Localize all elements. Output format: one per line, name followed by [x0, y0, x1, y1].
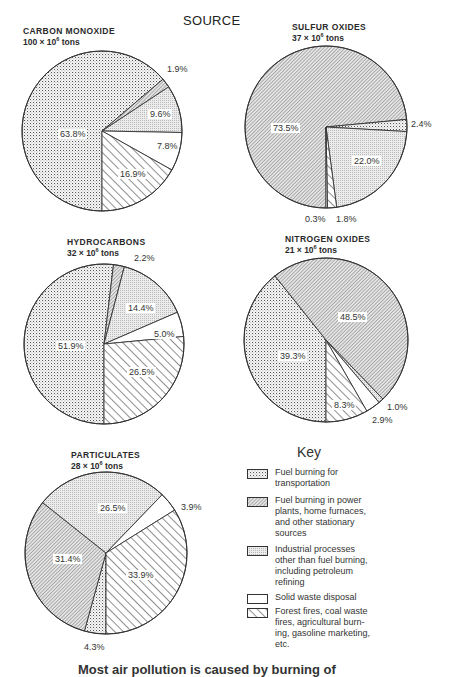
key-heading: Key [297, 444, 321, 460]
legend-label-line: ing, gasoline marketing, [275, 628, 415, 639]
legend-swatch-forest [247, 608, 268, 618]
legend-label-line: refining [275, 577, 415, 588]
legend-label-line: etc. [275, 639, 415, 650]
legend-swatch-solid_waste [247, 594, 268, 604]
legend-label-line: Fuel burning for [275, 467, 415, 478]
legend-label: Fuel burning in powerplants, home furnac… [275, 495, 415, 539]
legend-label-line: Fuel burning in power [275, 495, 415, 506]
footer-caption-partial: Most air pollution is caused by burning … [78, 662, 336, 677]
slice-label-power: 31.4% [55, 554, 81, 564]
legend-label-line: transportation [275, 478, 415, 489]
legend-label-line: including petroleum [275, 566, 415, 577]
legend-label-line: and other stationary [275, 517, 415, 528]
slice-label-transport: 4.3% [84, 642, 105, 652]
legend-label-line: plants, home furnaces, [275, 506, 415, 517]
legend-label-line: other than fuel burning, [275, 555, 415, 566]
legend-swatch-industrial [247, 546, 268, 556]
legend-label: Forest fires, coal wastefires, agricultu… [275, 606, 415, 650]
legend-label: Fuel burning fortransportation [275, 467, 415, 489]
legend-label: Industrial processesother than fuel burn… [275, 544, 415, 588]
legend-label-line: Forest fires, coal waste [275, 606, 415, 617]
legend-swatch-transport [247, 469, 268, 479]
legend-label-line: sources [275, 528, 415, 539]
legend-swatch-power [247, 497, 268, 507]
slice-label-solid_waste: 3.9% [181, 502, 202, 512]
legend-label-line: Industrial processes [275, 544, 415, 555]
legend-label-line: Solid waste disposal [275, 592, 415, 603]
legend-label-line: fires, agricultural burn- [275, 617, 415, 628]
slice-label-forest: 33.9% [128, 570, 154, 580]
slice-label-industrial: 26.5% [100, 503, 126, 513]
legend-label: Solid waste disposal [275, 592, 415, 603]
